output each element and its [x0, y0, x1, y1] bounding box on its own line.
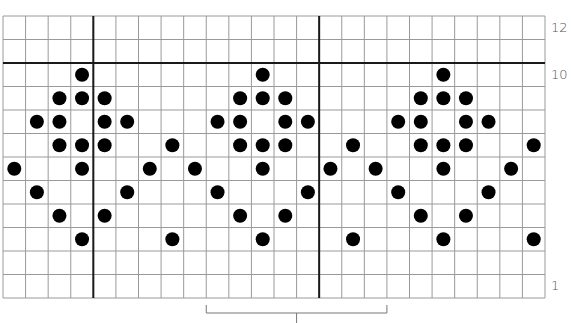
row-label-1: 1	[551, 279, 559, 292]
stitch-dot	[436, 91, 450, 105]
stitch-dot	[436, 138, 450, 152]
stitch-dot	[188, 162, 202, 176]
row-label-10: 10	[551, 68, 568, 81]
stitch-dot	[143, 162, 157, 176]
stitch-dot	[346, 232, 360, 246]
stitch-dot	[414, 138, 428, 152]
stitch-dot	[414, 209, 428, 223]
stitch-dot	[256, 138, 270, 152]
stitch-dot	[459, 138, 473, 152]
stitch-dot	[459, 209, 473, 223]
stitch-dot	[256, 91, 270, 105]
stitch-dot	[323, 162, 337, 176]
stitch-dot	[414, 91, 428, 105]
stitch-dot	[211, 185, 225, 199]
stitch-dot	[75, 162, 89, 176]
stitch-dot	[278, 115, 292, 129]
stitch-dot	[75, 138, 89, 152]
stitch-dot	[52, 138, 66, 152]
stitch-dot	[52, 115, 66, 129]
stitch-dot	[278, 91, 292, 105]
stitch-dot	[414, 115, 428, 129]
stitch-dot	[391, 115, 405, 129]
stitch-dot	[278, 138, 292, 152]
stitch-dot	[165, 138, 179, 152]
stitch-dot	[256, 68, 270, 82]
stitch-dot	[30, 115, 44, 129]
stitch-dot	[256, 162, 270, 176]
stitch-chart	[0, 0, 571, 323]
stitch-dot	[233, 138, 247, 152]
stitch-dot	[165, 232, 179, 246]
stitch-dot	[98, 138, 112, 152]
stitch-dot	[75, 68, 89, 82]
stitch-dot	[52, 91, 66, 105]
stitch-dot	[504, 162, 518, 176]
stitch-dot	[391, 185, 405, 199]
stitch-dot	[301, 115, 315, 129]
stitch-dot	[98, 91, 112, 105]
stitch-dot	[346, 138, 360, 152]
stitch-dot	[75, 91, 89, 105]
stitch-dot	[233, 115, 247, 129]
stitch-dot	[98, 115, 112, 129]
stitch-dot	[278, 209, 292, 223]
stitch-dot	[459, 91, 473, 105]
row-label-12: 12	[551, 21, 568, 34]
stitch-dot	[98, 209, 112, 223]
stitch-dot	[527, 138, 541, 152]
repeat-bracket	[206, 305, 387, 323]
stitch-dot	[7, 162, 21, 176]
bracket-line	[206, 305, 387, 313]
stitch-dot	[52, 209, 66, 223]
stitch-dot	[256, 232, 270, 246]
stitch-dot	[233, 209, 247, 223]
stitch-dot	[369, 162, 383, 176]
stitch-dot	[211, 115, 225, 129]
stitch-dot	[30, 185, 44, 199]
stitch-dot	[75, 232, 89, 246]
stitch-dot	[527, 232, 541, 246]
stitch-dot	[436, 68, 450, 82]
stitch-dot	[120, 185, 134, 199]
grid-lines	[3, 16, 545, 298]
stitch-dot	[459, 115, 473, 129]
stitch-dot	[436, 162, 450, 176]
stitch-dot	[120, 115, 134, 129]
stitch-dot	[482, 115, 496, 129]
stitch-dot	[301, 185, 315, 199]
stitch-dot	[482, 185, 496, 199]
stitch-dot	[436, 232, 450, 246]
stitch-dot	[233, 91, 247, 105]
